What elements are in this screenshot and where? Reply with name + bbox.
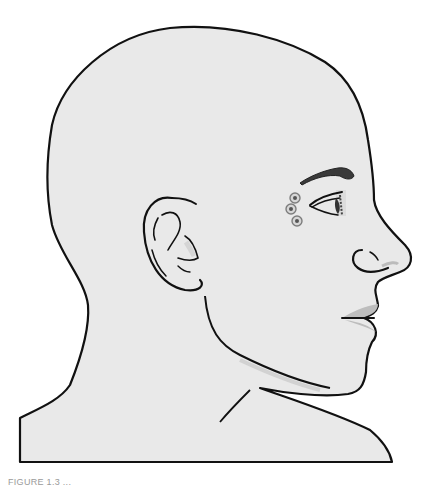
acupoint-marker-3 [292, 216, 302, 226]
figure-caption: FIGURE 1.3 ... [8, 477, 428, 487]
head-outline [20, 27, 411, 462]
acupoint-marker-1 [290, 193, 300, 203]
acupoint-marker-2 [286, 204, 296, 214]
